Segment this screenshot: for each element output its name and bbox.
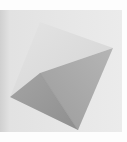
polyhedron-image	[0, 0, 127, 142]
polyhedron-graphic	[0, 0, 127, 142]
